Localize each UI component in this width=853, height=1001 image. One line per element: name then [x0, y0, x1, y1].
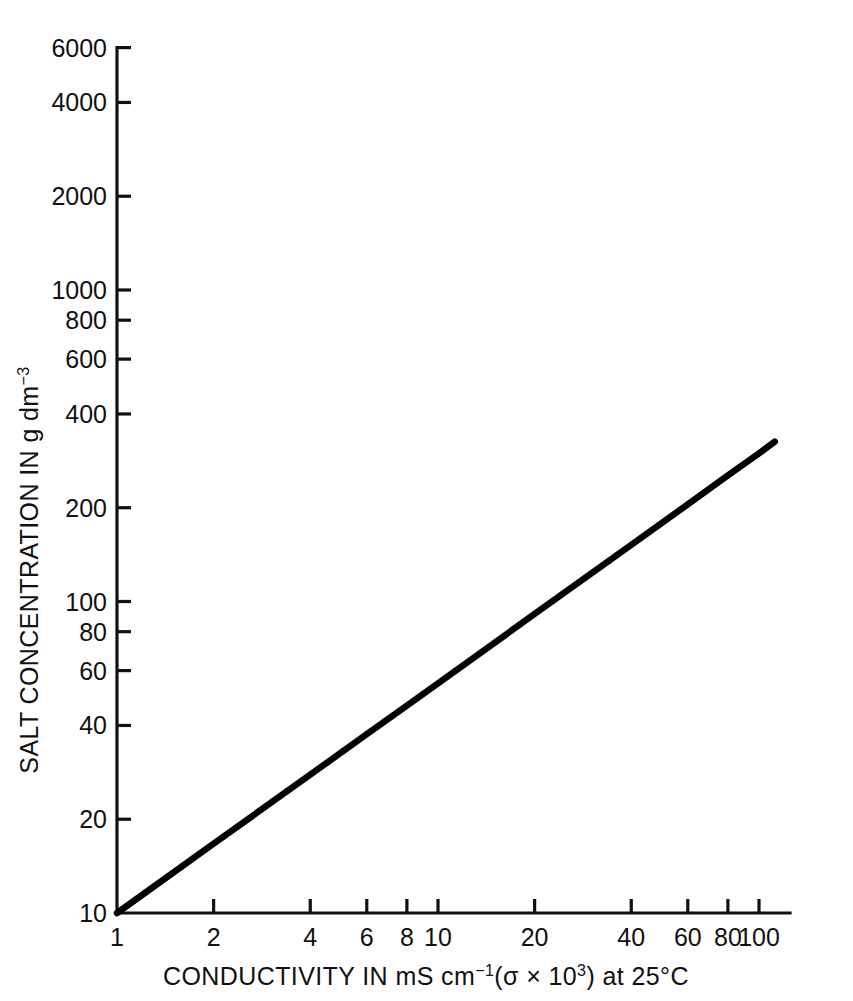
y-tick-label: 2000 — [51, 182, 107, 210]
x-tick-label: 2 — [207, 923, 221, 951]
tick-marks-group — [117, 48, 759, 913]
x-tick-labels-group: 124681020406080100 — [110, 923, 780, 951]
chart-svg: 124681020406080100 102040608010020040060… — [0, 0, 853, 1001]
x-tick-label: 20 — [521, 923, 549, 951]
axis-lines-group — [117, 48, 790, 913]
y-tick-label: 20 — [79, 805, 107, 833]
y-tick-label: 1000 — [51, 276, 107, 304]
y-tick-label: 100 — [65, 588, 107, 616]
x-axis-title: CONDUCTIVITY IN mS cm−1(σ × 103) at 25°C — [163, 962, 689, 990]
y-tick-label: 60 — [79, 657, 107, 685]
data-series-group — [117, 442, 775, 913]
y-tick-label: 4000 — [51, 88, 107, 116]
y-tick-label: 6000 — [51, 34, 107, 62]
x-tick-label: 1 — [110, 923, 124, 951]
y-tick-label: 80 — [79, 618, 107, 646]
y-tick-label: 40 — [79, 711, 107, 739]
x-tick-label: 8 — [400, 923, 414, 951]
x-tick-label: 40 — [617, 923, 645, 951]
x-tick-label: 4 — [303, 923, 317, 951]
x-tick-label: 100 — [738, 923, 780, 951]
y-tick-label: 10 — [79, 899, 107, 927]
y-tick-label: 800 — [65, 306, 107, 334]
data-line — [117, 442, 775, 913]
y-tick-label: 200 — [65, 494, 107, 522]
x-tick-label: 6 — [360, 923, 374, 951]
y-axis-title: SALT CONCENTRATION IN g dm−3 — [15, 366, 43, 773]
x-tick-label: 60 — [674, 923, 702, 951]
y-tick-label: 400 — [65, 400, 107, 428]
y-tick-labels-group: 1020406080100200400600800100020004000600… — [51, 34, 107, 927]
chart-figure: 124681020406080100 102040608010020040060… — [0, 0, 853, 1001]
x-tick-label: 10 — [424, 923, 452, 951]
y-tick-label: 600 — [65, 345, 107, 373]
